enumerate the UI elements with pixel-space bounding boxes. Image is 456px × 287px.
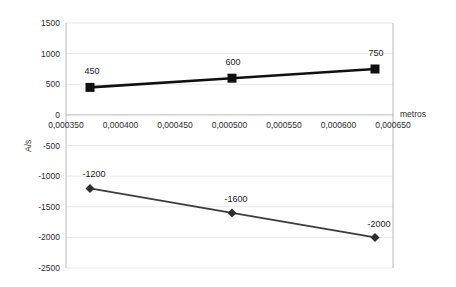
data-point-label: -1600 [224,194,247,204]
data-point-label: 750 [368,48,383,58]
data-point-label: 450 [84,66,99,76]
chart-container: 1500 1000 500 0 -500 -1000 -1500 -2000 -… [0,0,456,287]
x-axis-title: metros [400,109,426,119]
y-axis-tick-labels: 1500 1000 500 0 -500 -1000 -1500 -2000 -… [38,18,60,273]
x-tick-label: 0,000600 [321,120,357,130]
y-tick-label: 1000 [41,49,60,59]
chart-canvas: 1500 1000 500 0 -500 -1000 -1500 -2000 -… [0,0,456,287]
x-tick-label: 0,000350 [48,120,84,130]
y-tick-label: -1500 [38,202,60,212]
data-point-label: -2000 [367,219,390,229]
y-tick-label: -500 [43,141,60,151]
y-tick-label: 0 [55,110,60,120]
x-tick-label: 0,000550 [266,120,302,130]
y-axis-title: A/s [23,140,33,152]
data-point-marker[interactable] [371,65,380,74]
x-tick-label: 0,000400 [103,120,139,130]
y-tick-label: -2500 [38,263,60,273]
y-tick-label: 1500 [41,18,60,28]
x-tick-label: 0,000450 [157,120,193,130]
data-point-label: -1200 [82,169,105,179]
data-point-label: 600 [225,57,240,67]
x-tick-label: 0,000500 [212,120,248,130]
data-point-marker[interactable] [228,74,237,83]
y-tick-label: -2000 [38,232,60,242]
x-tick-label: 0,000650 [375,120,411,130]
y-tick-label: -1000 [38,171,60,181]
data-point-marker[interactable] [86,83,95,92]
y-tick-label: 500 [46,79,60,89]
